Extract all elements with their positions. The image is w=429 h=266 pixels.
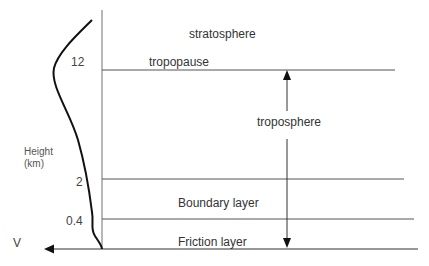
friction-layer-label: Friction layer — [178, 236, 247, 248]
height-tick-12: 12 — [71, 56, 84, 68]
atmosphere-diagram: stratosphere tropopause troposphere Boun… — [0, 0, 429, 266]
height-axis-label-line1: Height — [24, 146, 53, 158]
height-tick-2: 2 — [76, 176, 83, 188]
troposphere-arrowhead-up-icon — [283, 70, 291, 80]
height-axis-label-line2: (km) — [24, 158, 53, 170]
velocity-axis-label: V — [13, 237, 21, 249]
tropopause-label: tropopause — [149, 56, 209, 68]
boundary-layer-label: Boundary layer — [178, 197, 259, 209]
troposphere-label: troposphere — [257, 116, 321, 128]
stratosphere-label: stratosphere — [189, 28, 256, 40]
velocity-axis-arrowhead-icon — [44, 245, 54, 254]
height-tick-0-4: 0.4 — [66, 215, 83, 227]
height-axis-label: Height (km) — [24, 146, 53, 170]
troposphere-arrowhead-down-icon — [283, 238, 291, 248]
